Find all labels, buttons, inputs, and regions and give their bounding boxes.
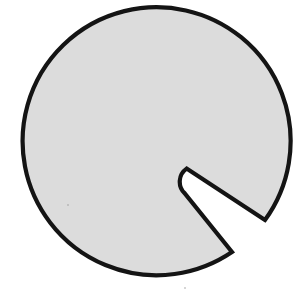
figure-canvas: Notched Disc Geometric Figure A light gr… xyxy=(0,0,296,297)
